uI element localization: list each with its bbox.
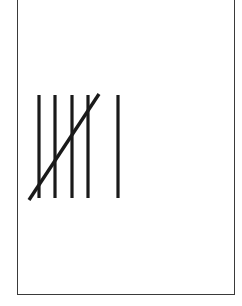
tally-marks-diagram xyxy=(0,0,242,306)
tally-group-five xyxy=(29,94,99,200)
